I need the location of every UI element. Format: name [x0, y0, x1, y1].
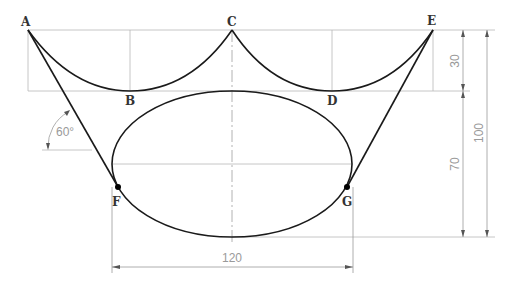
dim-120-arrow-left	[112, 265, 120, 269]
technical-drawing: A B C D E F G 60° 30 70 100 120	[0, 0, 511, 285]
label-g: G	[342, 195, 352, 209]
dim-70-arrow-bottom	[461, 230, 465, 237]
angle-arrow-bottom	[46, 143, 50, 150]
dim-30-value: 30	[448, 54, 462, 68]
curve-c-d-e	[232, 30, 433, 91]
dim-100-arrow-top	[485, 30, 489, 37]
dim-120-value: 120	[222, 251, 242, 265]
construction-lines	[28, 30, 495, 237]
point-g-marker	[344, 184, 350, 190]
label-d: D	[327, 94, 337, 108]
label-b: B	[125, 94, 135, 108]
vertical-dimensions: 30 70 100	[448, 30, 489, 237]
angle-arrow-top	[64, 110, 70, 116]
dim-120-arrow-right	[345, 265, 353, 269]
label-f: F	[112, 195, 121, 209]
tangent-line-e-g	[347, 30, 433, 187]
angle-dimension: 60°	[46, 110, 74, 150]
point-f-marker	[115, 184, 121, 190]
label-a: A	[20, 15, 31, 29]
profile-curves	[28, 30, 433, 237]
dim-30-arrow-top	[461, 30, 465, 37]
tangent-line-a-f	[28, 30, 118, 187]
label-e: E	[427, 14, 436, 28]
dim-100-arrow-bottom	[485, 230, 489, 237]
dim-70-arrow-top	[461, 91, 465, 98]
dim-30-arrow-bottom	[461, 84, 465, 91]
label-c: C	[227, 15, 237, 29]
dim-70-value: 70	[448, 157, 462, 171]
dim-100-value: 100	[472, 123, 486, 143]
angle-value: 60°	[56, 125, 74, 139]
horizontal-dimension: 120	[112, 187, 353, 273]
